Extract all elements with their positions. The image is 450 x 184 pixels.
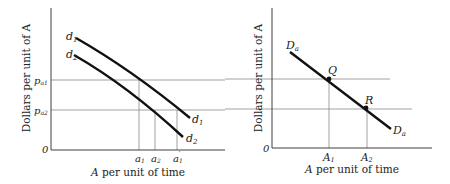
label-d2-start: d2 — [66, 48, 78, 62]
point-label-R: R — [364, 94, 373, 107]
left-x-axis-label: A per unit of time — [90, 166, 185, 178]
right-x-axis-label: A per unit of time — [304, 163, 399, 175]
left-x-axis-label-text: per unit of time — [99, 166, 185, 178]
demand-diagram: d1 d2 d1 d2 pa1 pa2 0 a1 a2 a1′ A per un… — [0, 0, 450, 184]
price-label-pa2: pa2 — [34, 105, 48, 116]
left-origin-label: 0 — [42, 144, 49, 155]
label-Da-start: Da — [285, 39, 299, 53]
tick-label-a1-prime: a1′ — [173, 150, 183, 164]
label-d2-end: d2 — [186, 132, 198, 146]
left-panel: d1 d2 d1 d2 pa1 pa2 0 a1 a2 a1′ A per un… — [20, 8, 225, 178]
point-Q — [327, 77, 332, 82]
right-x-axis-label-text: per unit of time — [313, 163, 399, 175]
right-y-axis-label: Dollars per unit of A — [252, 23, 264, 132]
demand-curve-d2 — [74, 55, 183, 137]
label-d1-end: d1 — [192, 113, 204, 127]
left-y-axis-label: Dollars per unit of A — [20, 23, 32, 132]
demand-curve-Da — [290, 52, 391, 129]
right-panel: Q R Da Da 0 A1 A2 A per unit of time Dol… — [225, 8, 432, 175]
right-origin-label: 0 — [263, 143, 270, 154]
price-label-pa1: pa1 — [34, 75, 48, 86]
point-label-Q: Q — [328, 64, 337, 77]
label-Da-end: Da — [392, 124, 406, 138]
label-d1-start: d1 — [66, 30, 78, 44]
tick-label-a2: a2 — [151, 153, 161, 164]
tick-label-a1: a1 — [135, 153, 145, 164]
demand-curve-d1 — [76, 38, 190, 118]
